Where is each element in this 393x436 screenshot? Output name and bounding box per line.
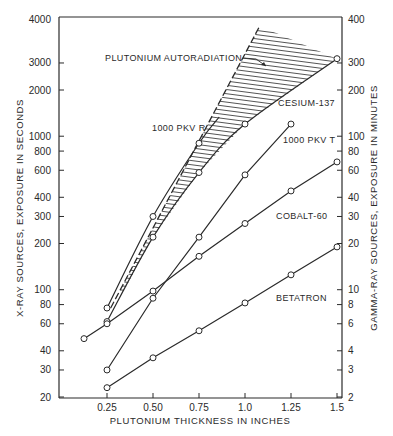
series-line-cobalt-60	[84, 162, 337, 339]
right-tick-label: 400	[348, 14, 365, 25]
data-point-marker	[288, 188, 294, 194]
right-y-axis: 40030020010080604030201086432	[337, 14, 365, 403]
data-point-marker	[334, 56, 340, 62]
label-1000-pkv-t: 1000 PKV T	[283, 135, 335, 145]
data-point-marker	[150, 355, 156, 361]
left-tick-label: 100	[34, 284, 51, 295]
x-tick-label: 0.50	[143, 402, 163, 413]
left-tick-label: 1000	[29, 131, 52, 142]
x-axis-title: PLUTONIUM THICKNESS IN INCHES	[110, 415, 291, 426]
label-betatron: BETATRON	[276, 293, 327, 303]
series-line-betatron	[107, 247, 337, 388]
data-point-marker	[196, 170, 202, 176]
data-point-marker	[288, 272, 294, 278]
right-tick-label: 3	[348, 364, 354, 375]
data-point-marker	[196, 328, 202, 334]
right-tick-label: 40	[348, 192, 360, 203]
left-tick-label: 300	[34, 211, 51, 222]
data-point-marker	[196, 234, 202, 240]
data-point-marker	[242, 121, 248, 127]
autoradiation-boundary	[111, 26, 260, 308]
data-point-marker	[150, 234, 156, 240]
right-tick-label: 6	[348, 318, 354, 329]
data-point-marker	[104, 385, 110, 391]
data-point-marker	[150, 295, 156, 301]
x-tick-label: 1.25	[281, 402, 301, 413]
right-tick-label: 200	[348, 85, 365, 96]
x-tick-label: 1.5	[330, 402, 344, 413]
data-point-marker	[334, 159, 340, 165]
left-tick-label: 40	[40, 345, 52, 356]
data-point-marker	[242, 172, 248, 178]
right-tick-label: 30	[348, 211, 360, 222]
series-line-1000-pkv-r	[107, 117, 219, 308]
label-1000-pkv-r: 1000 PKV R	[152, 123, 206, 133]
right-tick-label: 60	[348, 165, 360, 176]
data-point-marker	[150, 213, 156, 219]
x-tick-label: 0.25	[97, 402, 117, 413]
chart-root: 4000300020001000800600400300200100806040…	[0, 0, 393, 436]
data-point-marker	[242, 220, 248, 226]
label-cesium-137: CESIUM-137	[278, 98, 335, 108]
label-cobalt-60: COBALT-60	[276, 211, 327, 221]
left-tick-label: 800	[34, 146, 51, 157]
right-tick-label: 20	[348, 238, 360, 249]
right-axis-title: GAMMA-RAY SOURCES, EXPOSURE IN MINUTES	[368, 85, 379, 331]
data-point-marker	[104, 367, 110, 373]
series-layer	[81, 26, 340, 391]
left-tick-label: 200	[34, 238, 51, 249]
right-tick-label: 300	[348, 57, 365, 68]
data-point-marker	[242, 300, 248, 306]
right-tick-label: 2	[348, 392, 354, 403]
left-tick-label: 2000	[29, 85, 52, 96]
data-point-marker	[196, 253, 202, 259]
data-point-marker	[81, 336, 87, 342]
data-point-marker	[104, 321, 110, 327]
data-point-marker	[196, 140, 202, 146]
left-tick-label: 60	[40, 318, 52, 329]
left-tick-label: 4000	[29, 14, 52, 25]
x-axis: 0.250.500.751.01.251.5	[97, 393, 344, 413]
label-autoradiation: PLUTONIUM AUTORADIATION	[105, 53, 242, 63]
left-tick-label: 400	[34, 192, 51, 203]
data-point-marker	[288, 121, 294, 127]
x-tick-label: 1.0	[238, 402, 252, 413]
left-tick-label: 30	[40, 364, 52, 375]
left-tick-label: 600	[34, 165, 51, 176]
right-tick-label: 8	[348, 299, 354, 310]
right-tick-label: 100	[348, 131, 365, 142]
right-tick-label: 10	[348, 284, 360, 295]
left-tick-label: 20	[40, 392, 52, 403]
right-tick-label: 80	[348, 146, 360, 157]
left-axis-title: X-RAY SOURCES, EXPOSURE IN SECONDS	[14, 99, 25, 317]
x-tick-label: 0.75	[189, 402, 209, 413]
left-tick-label: 80	[40, 299, 52, 310]
data-point-marker	[104, 305, 110, 311]
right-tick-label: 4	[348, 345, 354, 356]
left-tick-label: 3000	[29, 57, 52, 68]
data-point-marker	[150, 288, 156, 294]
data-point-marker	[334, 244, 340, 250]
